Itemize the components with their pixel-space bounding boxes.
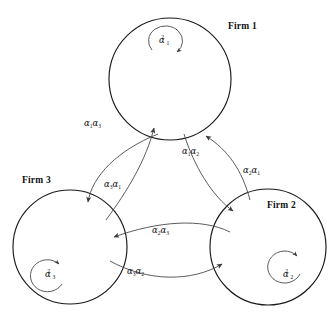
- alpha-subscript-second: 3: [166, 230, 169, 236]
- alpha-subscript: 2: [291, 274, 294, 280]
- self-loop-label-firm3: α23: [45, 270, 56, 279]
- alpha-glyph: α: [127, 266, 133, 276]
- alpha-subscript-second: 1: [118, 184, 121, 190]
- firm-label-firm3: Firm 3: [22, 176, 51, 186]
- self-loop-label-firm1: α21: [159, 36, 170, 45]
- firm-interaction-diagram: Firm 1 Firm 2 Firm 3 α21 α22 α23 α1α3 α3…: [0, 0, 335, 322]
- alpha-subscript-second: 1: [257, 170, 260, 176]
- flow-arc-firm3-to-firm1[interactable]: [106, 128, 154, 220]
- alpha-glyph: α: [84, 118, 90, 128]
- flow-arc-firm1-to-firm3[interactable]: [88, 134, 158, 202]
- firm-label-firm1: Firm 1: [228, 22, 257, 32]
- alpha-superscript: 2: [285, 268, 288, 274]
- edge-label-firm3-to-firm2: α3α2: [127, 267, 144, 276]
- alpha-subscript-second: 3: [98, 123, 101, 129]
- alpha-subscript-first: 2: [249, 170, 252, 176]
- alpha-superscript: 2: [47, 268, 50, 274]
- alpha-glyph: α: [182, 146, 188, 156]
- alpha-subscript-first: 1: [188, 151, 191, 157]
- edge-label-firm3-to-firm1: α3α1: [104, 180, 121, 189]
- alpha-subscript-first: 2: [158, 230, 161, 236]
- alpha-glyph: α: [104, 179, 110, 189]
- firm-label-firm2: Firm 2: [267, 201, 296, 211]
- alpha-subscript: 3: [53, 274, 56, 280]
- alpha-subscript: 1: [167, 40, 170, 46]
- alpha-glyph: α: [152, 225, 158, 235]
- alpha-subscript-first: 1: [90, 123, 93, 129]
- self-loop-label-firm2: α22: [283, 270, 294, 279]
- edge-label-firm2-to-firm1: α2α1: [243, 166, 260, 175]
- firm-circle-firm3[interactable]: [13, 190, 127, 304]
- alpha-subscript-first: 3: [133, 271, 136, 277]
- alpha-subscript-second: 2: [141, 271, 144, 277]
- edge-label-firm1-to-firm2: α1α2: [182, 147, 199, 156]
- alpha-superscript: 2: [161, 34, 164, 40]
- alpha-subscript-first: 3: [110, 184, 113, 190]
- alpha-subscript-second: 2: [196, 151, 199, 157]
- alpha-glyph: α: [243, 165, 249, 175]
- edge-label-firm2-to-firm3: α2α3: [152, 226, 169, 235]
- edge-label-firm1-to-firm3: α1α3: [84, 119, 101, 128]
